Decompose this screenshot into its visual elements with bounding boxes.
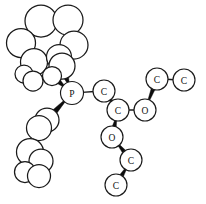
atom-c5-c: C	[120, 149, 142, 171]
atom-c2-c: C	[107, 99, 129, 121]
atom-circle	[120, 149, 142, 171]
atom-circle	[146, 68, 168, 90]
atom-c4-c: C	[173, 69, 195, 91]
atom-circle	[28, 165, 51, 188]
atom-circle	[105, 174, 127, 196]
atoms-layer: PCCOCCOCC	[7, 5, 196, 196]
atom-c6-c: C	[105, 174, 127, 196]
atom-circle	[23, 71, 43, 91]
atom-o2-o: O	[101, 126, 123, 148]
atom-p1-p: P	[61, 82, 84, 105]
atom-circle	[61, 82, 84, 105]
atom-circle	[134, 99, 156, 121]
atom-circle	[173, 69, 195, 91]
atom-r2-ring	[53, 5, 83, 35]
atom-circle	[93, 80, 115, 102]
atom-s2-ring	[27, 116, 52, 141]
atom-circle	[43, 67, 62, 86]
atom-circle	[101, 126, 123, 148]
atom-circle	[27, 116, 52, 141]
atom-circle	[53, 5, 83, 35]
atom-circle	[107, 99, 129, 121]
atom-c3-c: C	[146, 68, 168, 90]
chemical-structure-svg: PCCOCCOCC	[0, 0, 206, 204]
atom-r9-ring	[23, 71, 43, 91]
atom-c1-c: C	[93, 80, 115, 102]
atom-s6-ring	[28, 165, 51, 188]
atom-o1-o: O	[134, 99, 156, 121]
structure-diagram-canvas: PCCOCCOCC	[0, 0, 206, 204]
atom-r10-ring	[43, 67, 62, 86]
